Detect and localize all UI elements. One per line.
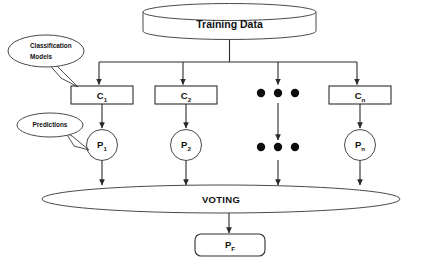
classifier-c2-sub: 2 bbox=[188, 96, 192, 103]
voting-label: VOTING bbox=[202, 194, 240, 205]
prediction-p2: P2 bbox=[171, 130, 202, 161]
ellipsis-dot bbox=[257, 89, 265, 97]
training-data-label: Training Data bbox=[196, 18, 263, 30]
prediction-pn-sub: n bbox=[361, 145, 365, 152]
final-prediction-sub: F bbox=[231, 245, 235, 252]
ellipsis-dot bbox=[291, 143, 299, 151]
prediction-ellipsis bbox=[257, 143, 299, 151]
classifier-to-prediction-links bbox=[102, 103, 360, 140]
final-prediction-node: PF bbox=[195, 234, 265, 256]
callout-predictions-label: Predictions bbox=[33, 121, 68, 128]
callout-classification-models-line2: Models bbox=[30, 53, 52, 60]
prediction-pn: Pn bbox=[345, 130, 376, 161]
training-data-node: Training Data bbox=[143, 4, 316, 40]
voting-node: VOTING bbox=[42, 185, 400, 213]
ellipsis-dot bbox=[274, 143, 282, 151]
classifier-cn: Cn bbox=[329, 86, 391, 104]
diagram-canvas: Training Data C1 C2 Cn bbox=[0, 0, 433, 270]
distribution-bus bbox=[99, 40, 357, 85]
classifier-c1-sub: 1 bbox=[104, 96, 108, 103]
prediction-p1-sub: 1 bbox=[103, 145, 107, 152]
callout-classification-models: Classification Models bbox=[8, 35, 84, 87]
classifier-c2: C2 bbox=[155, 86, 217, 104]
classifier-ellipsis bbox=[257, 89, 299, 97]
classifier-c1: C1 bbox=[71, 86, 133, 104]
callout-predictions: Predictions bbox=[17, 113, 89, 150]
prediction-p2-sub: 2 bbox=[187, 145, 191, 152]
classifier-cn-sub: n bbox=[362, 96, 366, 103]
callout-classification-models-line1: Classification bbox=[30, 42, 72, 49]
prediction-to-voting-links bbox=[102, 160, 360, 185]
ensemble-voting-diagram: Training Data C1 C2 Cn bbox=[0, 0, 433, 270]
prediction-p1: P1 bbox=[87, 130, 118, 161]
ellipsis-dot bbox=[274, 89, 282, 97]
ellipsis-dot bbox=[291, 89, 299, 97]
ellipsis-dot bbox=[257, 143, 265, 151]
